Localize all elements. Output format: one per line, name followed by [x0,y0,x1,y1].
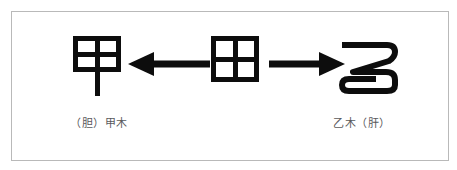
caption-right: 乙木（肝） [333,114,391,130]
glyph-tian-vertical-stroke [233,36,238,82]
diagram-row [12,34,450,102]
glyph-tian [211,36,259,82]
glyph-jia-descending-stroke [95,70,100,96]
figure-frame: （胆）甲木 乙木（肝） [11,11,449,161]
caption-left: （胆）甲木 [70,114,128,130]
glyph-jia [70,36,124,98]
arrow-left-icon [128,50,210,78]
figure-page: （胆）甲木 乙木（肝） [0,0,457,170]
arrow-right-icon [269,50,345,78]
glyph-jia-vertical-stroke [95,36,100,72]
glyph-yi [337,34,403,98]
